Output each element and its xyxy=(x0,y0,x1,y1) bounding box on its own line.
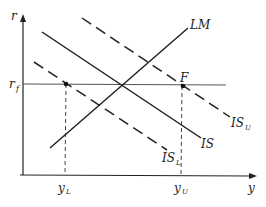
point-low xyxy=(64,82,69,87)
is-lower-sub: L xyxy=(175,159,181,167)
is-label: IS xyxy=(200,137,214,151)
tick-yl-sub: L xyxy=(65,188,71,196)
tick-yu: y xyxy=(173,181,181,195)
y-axis-arrow-icon xyxy=(20,14,26,22)
drop-line-yu xyxy=(181,86,182,175)
is-upper-curve xyxy=(82,18,230,117)
rate-label: r xyxy=(9,77,16,91)
lm-label: LM xyxy=(189,18,211,32)
tick-yu-sub: U xyxy=(182,188,189,196)
point-f-label: F xyxy=(179,71,189,85)
x-axis xyxy=(20,175,252,176)
is-lm-diagram: r r f LM IS IS L IS U F y L y U y xyxy=(0,0,266,207)
lm-curve xyxy=(50,28,188,148)
x-axis-y-label: y xyxy=(247,181,255,195)
x-axis-arrow-icon xyxy=(249,173,257,179)
is-upper-label: IS xyxy=(230,116,244,130)
is-lower-label: IS xyxy=(161,151,175,165)
tick-yl: y xyxy=(57,181,65,195)
rate-label-sub: f xyxy=(15,84,21,93)
is-upper-sub: U xyxy=(245,124,252,132)
axes xyxy=(20,18,252,176)
drop-line-yl xyxy=(65,84,66,175)
y-axis-label: r xyxy=(11,9,18,23)
is-lower-curve xyxy=(34,62,167,150)
